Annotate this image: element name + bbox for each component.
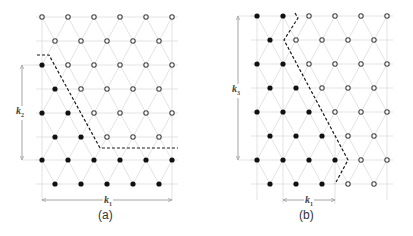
hollow-node xyxy=(346,86,350,90)
hollow-node xyxy=(105,39,109,43)
lattice-lines xyxy=(36,17,178,200)
filled-node xyxy=(280,157,285,162)
filled-node xyxy=(39,157,44,162)
filled-node xyxy=(39,62,44,67)
filled-node xyxy=(65,157,70,162)
caption-b: (b) xyxy=(299,208,314,222)
hollow-node xyxy=(385,14,389,18)
filled-node xyxy=(143,157,148,162)
hollow-node xyxy=(307,62,311,66)
lattice-nodes xyxy=(254,13,389,186)
filled-node xyxy=(280,109,285,114)
hollow-node xyxy=(92,63,96,67)
filled-node xyxy=(267,133,272,138)
hollow-node xyxy=(346,182,350,186)
filled-node xyxy=(280,61,285,66)
hollow-node xyxy=(118,63,122,67)
filled-node xyxy=(117,157,122,162)
hollow-node xyxy=(320,86,324,90)
filled-node xyxy=(52,134,57,139)
filled-node xyxy=(169,157,174,162)
filled-node xyxy=(319,133,324,138)
caption-a: (a) xyxy=(98,208,113,222)
hollow-node xyxy=(157,135,161,139)
hollow-node xyxy=(333,14,337,18)
hollow-node xyxy=(92,111,96,115)
k1-label-b: k1 xyxy=(304,195,314,209)
boundary-line xyxy=(37,55,178,148)
hollow-node xyxy=(359,110,363,114)
k3-label: k3 xyxy=(231,84,241,98)
filled-node xyxy=(306,157,311,162)
hollow-node xyxy=(372,182,376,186)
hollow-node xyxy=(157,87,161,91)
hollow-node xyxy=(385,158,389,162)
filled-node xyxy=(254,13,259,18)
filled-node xyxy=(267,37,272,42)
filled-node xyxy=(78,134,83,139)
hollow-node xyxy=(66,63,70,67)
filled-node xyxy=(332,157,337,162)
k1-label-a: k1 xyxy=(103,195,113,209)
hollow-node xyxy=(333,110,337,114)
filled-node xyxy=(78,181,83,186)
hollow-node xyxy=(144,111,148,115)
hollow-node xyxy=(79,39,83,43)
hollow-node xyxy=(118,111,122,115)
hollow-node xyxy=(105,135,109,139)
filled-node xyxy=(267,85,272,90)
hollow-node xyxy=(53,39,57,43)
hollow-node xyxy=(144,15,148,19)
hollow-node xyxy=(385,62,389,66)
hollow-node xyxy=(346,38,350,42)
hollow-node xyxy=(359,62,363,66)
hollow-node xyxy=(105,87,109,91)
hollow-node xyxy=(385,110,389,114)
lattice-diagram xyxy=(0,0,413,236)
hollow-node xyxy=(170,63,174,67)
hollow-node xyxy=(40,15,44,19)
filled-node xyxy=(65,110,70,115)
filled-node xyxy=(293,85,298,90)
filled-node xyxy=(293,133,298,138)
hollow-node xyxy=(372,38,376,42)
filled-node xyxy=(39,110,44,115)
filled-node xyxy=(104,181,109,186)
filled-node xyxy=(52,181,57,186)
filled-node xyxy=(91,157,96,162)
hollow-node xyxy=(170,111,174,115)
hollow-node xyxy=(307,14,311,18)
hollow-node xyxy=(144,63,148,67)
hollow-node xyxy=(118,15,122,19)
hollow-node xyxy=(294,38,298,42)
filled-node xyxy=(306,109,311,114)
hollow-node xyxy=(92,15,96,19)
hollow-node xyxy=(372,86,376,90)
filled-node xyxy=(254,157,259,162)
panel-b xyxy=(238,13,393,204)
filled-node xyxy=(319,181,324,186)
filled-node xyxy=(267,181,272,186)
panel-a xyxy=(22,15,178,200)
hollow-node xyxy=(320,38,324,42)
hollow-node xyxy=(157,39,161,43)
hollow-node xyxy=(131,39,135,43)
hollow-node xyxy=(79,87,83,91)
filled-node xyxy=(254,61,259,66)
filled-node xyxy=(280,13,285,18)
hollow-node xyxy=(372,134,376,138)
hollow-node xyxy=(131,135,135,139)
filled-node xyxy=(52,86,57,91)
lattice-nodes xyxy=(39,15,174,187)
filled-node xyxy=(254,109,259,114)
k2-label: k2 xyxy=(15,106,25,120)
filled-node xyxy=(293,181,298,186)
hollow-node xyxy=(346,134,350,138)
hollow-node xyxy=(170,15,174,19)
filled-node xyxy=(156,181,161,186)
hollow-node xyxy=(131,87,135,91)
dimension-arrows xyxy=(22,65,172,200)
hollow-node xyxy=(359,14,363,18)
hollow-node xyxy=(333,62,337,66)
hollow-node xyxy=(359,158,363,162)
